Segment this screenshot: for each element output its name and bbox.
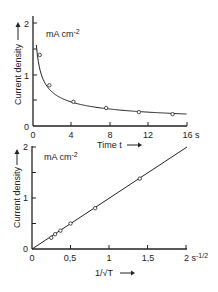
top-unit-label: mA cm-2 <box>46 28 80 39</box>
bottom-xtick-1: 0,5 <box>64 253 77 263</box>
data-point <box>48 84 51 87</box>
data-point <box>171 112 174 115</box>
top-data-points <box>38 53 174 116</box>
data-point <box>137 110 140 113</box>
chart-figure: 0 1 2 0 4 8 12 16 s mA cm-2 Time t Curre… <box>0 0 218 292</box>
data-point <box>72 100 75 103</box>
bottom-xtick-0: 0 <box>29 253 34 263</box>
data-point <box>69 222 72 225</box>
top-xtick-1: 4 <box>68 130 73 140</box>
data-point <box>138 177 141 180</box>
data-point <box>50 236 53 239</box>
bottom-xtick-4: 2 s-1/2 <box>184 252 208 263</box>
top-y-label: Current density <box>13 43 23 105</box>
top-ytick-2: 2 <box>24 19 29 29</box>
top-ytick-1: 1 <box>24 71 29 81</box>
bottom-ytick-0: 0 <box>23 244 28 254</box>
bottom-x-label: 1/√T <box>95 268 113 278</box>
data-point <box>104 106 107 109</box>
top-xtick-4: 16 s <box>182 130 200 140</box>
top-curve <box>36 45 186 114</box>
bottom-ytick-1: 1 <box>23 193 28 203</box>
top-chart: 0 1 2 0 4 8 12 16 s mA cm-2 Time t Curre… <box>13 16 200 150</box>
top-xtick-0: 0 <box>30 130 35 140</box>
bottom-ytick-2: 2 <box>23 142 28 152</box>
bottom-xtick-3: 1,5 <box>142 253 155 263</box>
bottom-unit-label: mA cm-2 <box>44 151 78 162</box>
bottom-y-label: Current density <box>12 166 22 228</box>
top-xtick-2: 8 <box>107 130 112 140</box>
top-x-label: Time t <box>97 140 122 150</box>
data-point <box>93 207 96 210</box>
bottom-xtick-2: 1 <box>106 253 111 263</box>
bottom-chart: 0 1 2 0 0,5 1 1,5 2 s-1/2 mA cm-2 1/√T C… <box>12 142 208 278</box>
top-ytick-0: 0 <box>24 122 29 132</box>
data-point <box>53 233 56 236</box>
data-point <box>59 229 62 232</box>
top-xtick-3: 12 <box>143 130 153 140</box>
data-point <box>38 53 41 56</box>
